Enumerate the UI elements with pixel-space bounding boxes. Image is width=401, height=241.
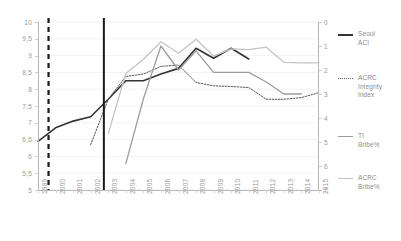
left-axis-tick-label: 6,5 <box>8 136 32 143</box>
x-axis-tick-mark <box>214 190 215 193</box>
chart-container: 109,598,587,576,565,55 01234567 19992000… <box>0 0 401 241</box>
x-axis-tick-label: 2002 <box>94 179 101 194</box>
x-axis-tick-mark <box>161 190 162 193</box>
x-axis-tick-label: 2001 <box>76 179 83 194</box>
legend-label: TIBribe% <box>358 132 400 149</box>
x-axis-tick-mark <box>301 190 302 193</box>
left-axis-tick-mark <box>35 123 38 124</box>
x-axis-tick-mark <box>231 190 232 193</box>
legend-label: ACRCBribe% <box>358 174 400 191</box>
x-axis-tick-label: 2000 <box>59 179 66 194</box>
left-axis-tick-label: 6 <box>8 153 32 160</box>
plot-area <box>38 22 319 190</box>
right-axis-tick-label: 3 <box>324 91 344 98</box>
x-axis-tick-mark <box>266 190 267 193</box>
x-axis-tick-mark <box>38 190 39 193</box>
left-axis-tick-mark <box>35 56 38 57</box>
x-axis-tick-label: 2007 <box>182 179 189 194</box>
x-axis-tick-label: 2003 <box>111 179 118 194</box>
legend-label: SeoulACI <box>358 30 400 47</box>
right-axis-tick-label: 4 <box>324 115 344 122</box>
x-axis-tick-label: 2012 <box>269 179 276 194</box>
x-axis-tick-label: 2005 <box>146 179 153 194</box>
legend-swatch-icon <box>338 178 353 179</box>
x-axis-tick-label: 2004 <box>129 179 136 194</box>
right-axis-tick-mark <box>319 94 322 95</box>
left-axis-tick-label: 5 <box>8 187 32 194</box>
left-axis-tick-label: 8 <box>8 86 32 93</box>
x-axis-tick-mark <box>284 190 285 193</box>
x-axis-tick-mark <box>73 190 74 193</box>
right-axis-tick-label: 0 <box>324 19 344 26</box>
right-axis-tick-mark <box>319 118 322 119</box>
left-axis-tick-label: 7 <box>8 119 32 126</box>
left-axis-tick-label: 8,5 <box>8 69 32 76</box>
right-axis-tick-mark <box>319 166 322 167</box>
left-axis-tick-mark <box>35 89 38 90</box>
x-axis-tick-label: 2009 <box>217 179 224 194</box>
x-axis-tick-label: 2008 <box>199 179 206 194</box>
x-axis-tick-mark <box>179 190 180 193</box>
right-axis-tick-mark <box>319 142 322 143</box>
left-axis-tick-mark <box>35 22 38 23</box>
right-axis-tick-mark <box>319 70 322 71</box>
x-axis-tick-mark <box>108 190 109 193</box>
left-axis-line <box>38 22 39 190</box>
x-axis-tick-label: 2010 <box>234 179 241 194</box>
x-axis-tick-mark <box>249 190 250 193</box>
right-axis-tick-mark <box>319 46 322 47</box>
left-axis-tick-mark <box>35 72 38 73</box>
legend-swatch-icon <box>338 78 353 79</box>
right-axis-line <box>318 22 319 190</box>
right-axis-tick-label: 1 <box>324 43 344 50</box>
x-axis-tick-label: 1999 <box>41 179 48 194</box>
x-axis-tick-label: 2013 <box>287 179 294 194</box>
right-axis-tick-label: 6 <box>324 163 344 170</box>
reference-lines <box>38 22 319 190</box>
x-axis-tick-label: 2011 <box>252 179 259 194</box>
left-axis-tick-label: 9,5 <box>8 35 32 42</box>
left-axis-tick-mark <box>35 106 38 107</box>
left-axis-tick-mark <box>35 173 38 174</box>
right-axis-tick-label: 2 <box>324 67 344 74</box>
left-axis-tick-label: 9 <box>8 52 32 59</box>
legend-label: ACRCIntegrityIndex <box>358 74 400 100</box>
right-axis-tick-label: 5 <box>324 139 344 146</box>
right-axis-tick-mark <box>319 22 322 23</box>
x-axis-tick-mark <box>196 190 197 193</box>
legend-swatch-icon <box>338 34 353 36</box>
x-axis-tick-label: 2006 <box>164 179 171 194</box>
left-axis-tick-label: 10 <box>8 19 32 26</box>
left-axis-tick-mark <box>35 140 38 141</box>
left-axis-tick-label: 7,5 <box>8 103 32 110</box>
legend-swatch-icon <box>338 136 353 137</box>
x-axis-tick-mark <box>143 190 144 193</box>
x-axis-tick-label: 2014 <box>304 179 311 194</box>
left-axis-tick-label: 5,5 <box>8 170 32 177</box>
x-axis-tick-label: 2015 <box>322 179 329 194</box>
left-axis-tick-mark <box>35 39 38 40</box>
x-axis-tick-mark <box>56 190 57 193</box>
x-axis-tick-mark <box>126 190 127 193</box>
x-axis-tick-mark <box>91 190 92 193</box>
x-axis-tick-mark <box>319 190 320 193</box>
left-axis-tick-mark <box>35 156 38 157</box>
